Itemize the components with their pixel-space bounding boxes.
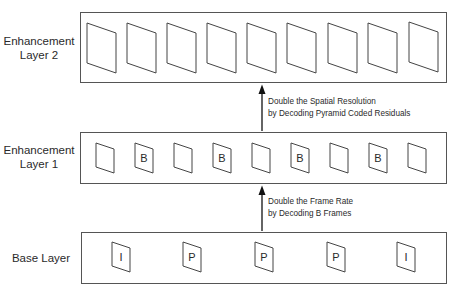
enhancement-layer-1-frame-labels: B B B B — [140, 152, 381, 164]
note-line: Double the Spatial Resolution — [268, 96, 410, 108]
diagram-canvas: B B B B I P P P I — [0, 0, 460, 293]
arrow-spatial-resolution — [259, 85, 266, 132]
arrowhead-icon — [259, 186, 266, 196]
video-frame — [368, 23, 397, 73]
video-frame — [252, 143, 270, 173]
arrow-note-frame-rate: Double the Frame Rate by Decoding B Fram… — [268, 196, 353, 219]
arrow-note-spatial-resolution: Double the Spatial Resolution by Decodin… — [268, 96, 410, 119]
video-frame — [328, 23, 357, 73]
frame-type-label: P — [260, 251, 267, 263]
video-frame — [87, 23, 116, 73]
frame-type-label: B — [296, 152, 303, 164]
arrow-frame-rate — [259, 186, 266, 232]
frame-type-label: P — [188, 251, 195, 263]
base-layer-frame-labels: I P P P I — [119, 251, 407, 263]
video-frame — [408, 143, 426, 173]
enhancement-layer-2-frames — [87, 22, 438, 73]
video-frame — [330, 143, 348, 173]
frame-type-label: P — [332, 251, 339, 263]
note-line: by Decoding B Frames — [268, 208, 353, 220]
frame-type-label: B — [374, 152, 381, 164]
frame-type-label: B — [218, 152, 225, 164]
video-frame — [409, 22, 438, 72]
frame-type-label: I — [404, 251, 407, 263]
video-frame — [174, 143, 192, 173]
note-line: by Decoding Pyramid Coded Residuals — [268, 108, 410, 120]
video-frame — [287, 23, 316, 73]
note-line: Double the Frame Rate — [268, 196, 353, 208]
arrowhead-icon — [259, 85, 266, 95]
video-frame — [96, 143, 114, 173]
video-frame — [167, 23, 196, 73]
frame-type-label: I — [119, 251, 122, 263]
video-frame — [207, 23, 236, 73]
video-frame — [247, 23, 276, 73]
frame-type-label: B — [140, 152, 147, 164]
video-frame — [127, 23, 156, 73]
